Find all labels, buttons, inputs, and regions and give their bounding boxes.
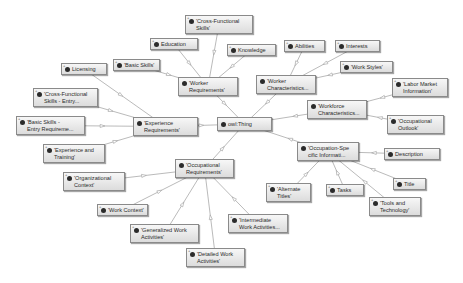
node-title[interactable]: +Title	[393, 178, 426, 190]
node-cfsentry[interactable]: +'Cross-FunctionalSkills - Entry...	[33, 88, 98, 107]
node-gwa[interactable]: +'Generalized WorkActivities'	[130, 224, 199, 243]
class-icon	[37, 92, 42, 97]
arrow-icon	[108, 108, 113, 111]
node-label: 'Experience	[144, 120, 194, 127]
node-iwa[interactable]: +'IntermediateWork Activities...	[228, 214, 288, 233]
node-label: 'Worker	[267, 78, 312, 85]
node-label: 'Intermediate	[239, 217, 284, 224]
node-tools[interactable]: +'Tools andTechnology'	[369, 197, 421, 216]
node-licensing[interactable]: +Licensing	[61, 63, 107, 75]
node-label: 'Cross-Functional	[196, 18, 249, 25]
node-label: Title	[404, 181, 422, 188]
node-abilities[interactable]: +Abilities	[284, 40, 325, 52]
class-icon	[388, 152, 393, 157]
class-icon	[101, 208, 106, 213]
node-label: 'Worker	[189, 80, 234, 87]
node-label: Titles'	[277, 193, 307, 200]
arrow-icon	[336, 170, 339, 175]
node-label: 'Work Styles'	[351, 64, 389, 71]
node-label: Activities'	[197, 258, 241, 265]
edge-layer	[0, 0, 463, 283]
class-icon	[373, 201, 378, 206]
node-occspec[interactable]: 'Occupation-Specific Informati...	[297, 142, 359, 161]
arrow-icon	[141, 174, 146, 177]
arrow-icon	[213, 50, 216, 55]
class-icon	[311, 104, 316, 109]
class-icon	[20, 120, 25, 125]
class-icon	[117, 63, 122, 68]
node-education[interactable]: +Education	[150, 38, 198, 50]
arrow-icon	[323, 61, 328, 65]
arrow-icon	[199, 124, 204, 127]
node-occreq[interactable]: 'OccupationalRequirements'	[175, 159, 234, 178]
class-icon	[339, 44, 344, 49]
node-label: owl:Thing	[228, 121, 268, 128]
node-label: Skills'	[196, 25, 249, 32]
node-label: Activities'	[141, 234, 195, 241]
node-workerreq[interactable]: 'WorkerRequirements'	[178, 77, 238, 96]
node-label: 'Work Context'	[108, 207, 144, 214]
class-icon	[189, 19, 194, 24]
node-label: 'Workforce	[318, 103, 363, 110]
node-workerchar[interactable]: 'WorkerCharacteristics...	[256, 75, 316, 94]
class-icon	[190, 252, 195, 257]
class-icon	[270, 187, 275, 192]
node-label: 'Occupational	[398, 118, 440, 125]
node-interests[interactable]: +Interests	[335, 40, 380, 52]
node-label: Training'	[54, 154, 101, 161]
class-icon	[67, 176, 72, 181]
node-label: Work Activities...	[239, 224, 284, 231]
ontology-graph-canvas[interactable]: owl:Thing+'Cross-FunctionalSkills'+Educa…	[0, 0, 463, 283]
node-label: Requirements'	[189, 87, 234, 94]
node-workstyles[interactable]: +'Work Styles'	[340, 61, 393, 73]
node-dwa[interactable]: +'Detailed WorkActivities'	[186, 248, 245, 267]
arrow-icon	[293, 114, 298, 117]
node-label: 'Occupation-Spe	[308, 145, 355, 152]
node-outlook[interactable]: +'OccupationalOutlook'	[387, 115, 444, 134]
class-icon	[154, 42, 159, 47]
arrow-icon	[166, 73, 171, 76]
node-knowledge[interactable]: +Knowledge	[227, 44, 276, 56]
node-label: Education	[161, 41, 194, 48]
node-label: Context'	[74, 182, 121, 189]
node-expreq[interactable]: 'ExperienceRequirements'	[133, 117, 198, 136]
node-description[interactable]: +Description	[384, 148, 440, 160]
node-workforce[interactable]: 'WorkforceCharacteristics...	[307, 100, 367, 119]
node-label: 'Occupational	[186, 162, 230, 169]
class-icon	[301, 146, 306, 151]
node-cfs[interactable]: +'Cross-FunctionalSkills'	[185, 15, 253, 34]
node-label: Knowledge	[238, 47, 272, 54]
node-label: 'Labor Market	[403, 81, 444, 88]
node-workctx[interactable]: +'Work Context'	[97, 204, 148, 216]
class-icon	[65, 67, 70, 72]
class-icon	[231, 48, 236, 53]
node-labor[interactable]: +'Labor MarketInformation'	[392, 78, 448, 97]
class-icon	[344, 65, 349, 70]
class-icon	[391, 119, 396, 124]
node-alttitles[interactable]: +'AlternateTitles'	[266, 183, 311, 202]
arrow-icon	[157, 190, 162, 194]
node-basic[interactable]: +'Basic Skills'	[113, 59, 160, 71]
node-label: Information'	[403, 88, 444, 95]
node-tasks[interactable]: +Tasks	[326, 184, 364, 196]
node-basicentry[interactable]: +'Basic Skills -Entry Requireme...	[16, 116, 85, 135]
arrow-icon	[100, 124, 105, 127]
node-label: 'Generalized Work	[141, 227, 195, 234]
node-label: Outlook'	[398, 125, 440, 132]
node-label: 'Experience and	[54, 147, 101, 154]
node-label: Licensing	[72, 66, 103, 73]
arrow-icon	[113, 140, 118, 143]
node-exptrain[interactable]: +'Experience andTraining'	[43, 144, 105, 163]
arrow-icon	[372, 151, 377, 154]
node-label: 'Detailed Work	[197, 251, 241, 258]
node-thing[interactable]: owl:Thing	[217, 117, 272, 131]
edge-occreq-dwa	[205, 169, 216, 258]
class-icon	[330, 188, 335, 193]
node-label: Abilities	[295, 43, 321, 50]
class-icon	[396, 82, 401, 87]
class-icon	[137, 121, 142, 126]
class-icon	[179, 163, 184, 168]
node-label: 'Cross-Functional	[44, 91, 94, 98]
arrow-icon	[288, 138, 293, 141]
node-orgctx[interactable]: +'OrganizationalContext'	[63, 172, 125, 191]
